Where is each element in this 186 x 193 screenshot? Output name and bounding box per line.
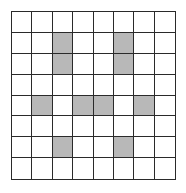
grid-cell (32, 12, 52, 33)
grid-cell (32, 54, 52, 75)
shaded-grid-diagram (11, 11, 176, 180)
shaded-cell (114, 137, 134, 158)
grid-cell (134, 75, 154, 96)
grid-cell (155, 54, 175, 75)
grid-cell (12, 116, 32, 137)
shaded-cell (53, 33, 73, 54)
grid-cell (73, 116, 93, 137)
grid-cell (32, 75, 52, 96)
grid-cell (53, 12, 73, 33)
grid-cell (94, 75, 114, 96)
grid-cell (12, 96, 32, 117)
grid-cell (155, 96, 175, 117)
grid-cell (12, 12, 32, 33)
shaded-cell (73, 96, 93, 117)
grid-cell (73, 75, 93, 96)
grid-cell (94, 137, 114, 158)
shaded-cell (114, 54, 134, 75)
grid-cell (94, 33, 114, 54)
shaded-cell (134, 96, 154, 117)
grid-cell (12, 33, 32, 54)
grid-cell (114, 96, 134, 117)
grid-cell (12, 54, 32, 75)
grid-cell (155, 116, 175, 137)
grid-cell (134, 137, 154, 158)
grid-cell (32, 116, 52, 137)
grid-cell (114, 12, 134, 33)
grid-cell (73, 137, 93, 158)
shaded-cell (53, 137, 73, 158)
grid-cell (94, 12, 114, 33)
grid-cell (134, 158, 154, 179)
grid-cell (134, 12, 154, 33)
shaded-cell (114, 33, 134, 54)
grid-cell (155, 12, 175, 33)
grid-cell (32, 137, 52, 158)
grid-cell (114, 116, 134, 137)
grid-cell (94, 54, 114, 75)
grid-cell (94, 116, 114, 137)
grid-cell (155, 75, 175, 96)
grid-cell (155, 158, 175, 179)
grid-cell (73, 12, 93, 33)
grid-cell (94, 158, 114, 179)
grid-cell (155, 137, 175, 158)
grid-cell (73, 54, 93, 75)
shaded-cell (94, 96, 114, 117)
grid-cell (53, 158, 73, 179)
grid-cell (53, 116, 73, 137)
grid-cell (155, 33, 175, 54)
grid-cell (12, 158, 32, 179)
grid-cell (53, 75, 73, 96)
shaded-cell (32, 96, 52, 117)
grid-cell (73, 33, 93, 54)
shaded-cell (53, 54, 73, 75)
grid-cell (12, 75, 32, 96)
grid-cell (73, 158, 93, 179)
grid-cell (134, 54, 154, 75)
grid-cell (114, 75, 134, 96)
grid-cell (53, 96, 73, 117)
grid-cell (32, 158, 52, 179)
grid-cell (12, 137, 32, 158)
grid-cell (134, 116, 154, 137)
grid-cell (32, 33, 52, 54)
grid-cell (114, 158, 134, 179)
grid-cell (134, 33, 154, 54)
